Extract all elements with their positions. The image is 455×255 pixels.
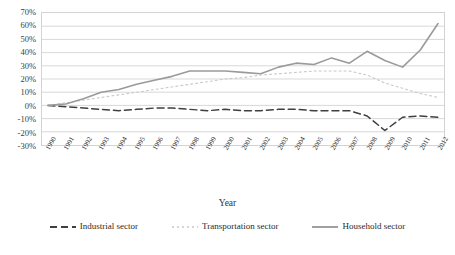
y-axis-tick-label: 10% xyxy=(20,88,36,97)
legend-household-sector[interactable]: Household sector xyxy=(312,222,405,231)
series-line-transportation-sector xyxy=(48,71,438,105)
y-axis-tick-label: 40% xyxy=(20,48,36,57)
series-line-industrial-sector xyxy=(48,105,438,130)
y-axis-tick-label: 70% xyxy=(20,8,36,17)
y-axis-tick-label: -10% xyxy=(18,115,36,124)
y-axis-tick-label: -20% xyxy=(18,129,36,138)
chart-container: 70%60%50%40%30%20%10%0%-10%-20%-30% 1990… xyxy=(0,0,455,255)
x-axis-title: Year xyxy=(0,198,455,208)
legend-label: Industrial sector xyxy=(80,222,138,231)
y-axis-tick-label: -30% xyxy=(18,142,36,151)
y-axis: 70%60%50%40%30%20%10%0%-10%-20%-30% xyxy=(0,0,39,255)
legend-swatch-icon xyxy=(50,223,76,231)
legend-swatch-icon xyxy=(172,223,198,231)
y-axis-tick-label: 0% xyxy=(25,102,36,111)
y-axis-tick-label: 50% xyxy=(20,35,36,44)
legend-label: Transportation sector xyxy=(202,222,278,231)
y-axis-tick-label: 30% xyxy=(20,62,36,71)
legend-industrial-sector[interactable]: Industrial sector xyxy=(50,222,138,231)
x-axis: 1990199119921993199419951996199719981999… xyxy=(41,146,445,192)
legend-transportation-sector[interactable]: Transportation sector xyxy=(172,222,278,231)
chart-legend: Industrial sectorTransportation sectorHo… xyxy=(0,222,455,231)
legend-swatch-icon xyxy=(312,223,338,231)
series-line-household-sector xyxy=(48,24,438,106)
legend-label: Household sector xyxy=(342,222,405,231)
plot-area xyxy=(41,12,445,146)
series-lines xyxy=(42,13,444,145)
y-axis-tick-label: 20% xyxy=(20,75,36,84)
y-axis-tick-label: 60% xyxy=(20,21,36,30)
